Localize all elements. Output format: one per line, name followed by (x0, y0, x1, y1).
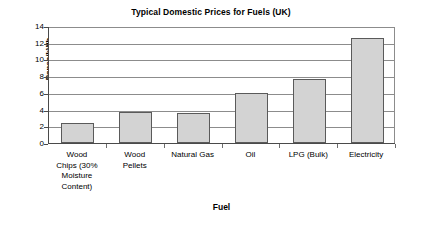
x-axis-tick-mark (106, 144, 107, 148)
x-axis-category-label: Electricity (337, 150, 395, 161)
y-axis-tick-mark (44, 60, 48, 61)
y-axis-tick-mark (44, 127, 48, 128)
y-axis-tick-label: 0 (28, 140, 44, 148)
x-axis-category-label-line: Electricity (337, 150, 395, 161)
gridline (49, 127, 395, 128)
x-axis-category-label: LPG (Bulk) (279, 150, 337, 161)
y-axis-tick-label: 6 (28, 90, 44, 98)
x-axis-category-label-line: LPG (Bulk) (279, 150, 337, 161)
x-axis-category-label-line: Wood (106, 150, 164, 161)
x-axis-tick-mark (337, 144, 338, 148)
y-axis-tick-label: 2 (28, 123, 44, 131)
bar-chart-figure: Typical Domestic Prices for Fuels (UK) P… (0, 0, 422, 225)
y-axis-tick-mark (44, 94, 48, 95)
gridline (49, 27, 395, 28)
x-axis-category-label-line: Oil (222, 150, 280, 161)
x-axis-category-label: Oil (222, 150, 280, 161)
x-axis-category-label-line: Natural Gas (164, 150, 222, 161)
bar (293, 79, 326, 143)
x-axis-tick-mark (164, 144, 165, 148)
y-axis-tick-mark (44, 111, 48, 112)
plot-area (48, 27, 395, 144)
x-axis-tick-mark (395, 144, 396, 148)
x-axis-category-label: WoodChips (30%MoistureContent) (48, 150, 106, 192)
x-axis-title: Fuel (48, 202, 395, 212)
y-axis-tick-mark (44, 44, 48, 45)
gridline (49, 77, 395, 78)
bar (177, 113, 210, 143)
x-axis-category-label: WoodPellets (106, 150, 164, 171)
y-axis-tick-label: 10 (28, 56, 44, 64)
gridline (49, 94, 395, 95)
x-axis-category-label-line: Moisture (48, 171, 106, 182)
y-axis-tick-mark (44, 77, 48, 78)
bar (61, 123, 94, 143)
y-axis-tick-label: 8 (28, 73, 44, 81)
gridline (49, 60, 395, 61)
y-axis-tick-label: 12 (28, 40, 44, 48)
x-axis-tick-mark (222, 144, 223, 148)
y-axis-tick-label: 4 (28, 107, 44, 115)
chart-title: Typical Domestic Prices for Fuels (UK) (0, 7, 422, 17)
bar (235, 93, 268, 143)
x-axis-category-label-line: Content) (48, 182, 106, 193)
y-axis-tick-labels: 02468101214 (26, 27, 44, 144)
x-axis-tick-mark (279, 144, 280, 148)
x-axis-category-label-line: Pellets (106, 161, 164, 172)
gridline (49, 111, 395, 112)
y-axis-tick-mark (44, 27, 48, 28)
x-axis-category-label-line: Chips (30% (48, 161, 106, 172)
x-axis-category-label-line: Wood (48, 150, 106, 161)
bar (351, 38, 384, 143)
y-axis-tick-label: 14 (28, 23, 44, 31)
bar (119, 112, 152, 143)
y-axis-tick-mark (44, 144, 48, 145)
gridline (49, 44, 395, 45)
x-axis-category-label: Natural Gas (164, 150, 222, 161)
